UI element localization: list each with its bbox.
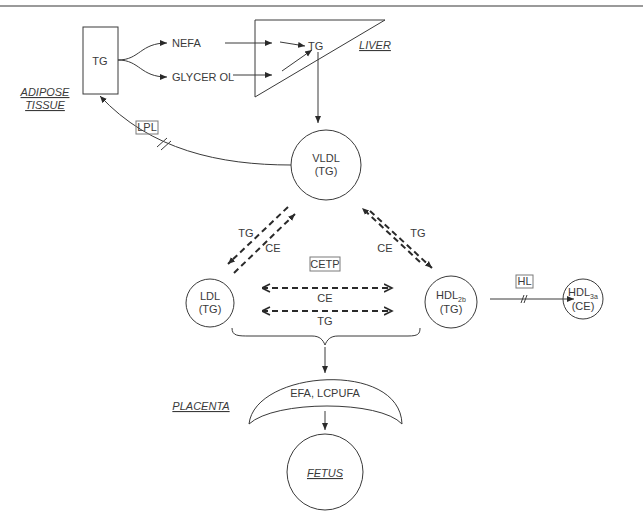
arrow-tg-to-nefa bbox=[118, 43, 167, 60]
fetus-circle: FETUS bbox=[287, 434, 363, 510]
vldl-content: (TG) bbox=[315, 165, 338, 177]
cetp-enzyme-box: CETP bbox=[310, 257, 340, 271]
glycerol-label: GLYCER OL bbox=[172, 71, 234, 83]
vldl-label: VLDL bbox=[312, 152, 340, 164]
ldl-label: LDL bbox=[200, 290, 220, 302]
left-tg-label: TG bbox=[238, 227, 253, 239]
lpl-label: LPL bbox=[137, 121, 157, 133]
hdl3a-label: HDL3a bbox=[568, 286, 598, 300]
ldl-content: (TG) bbox=[199, 303, 222, 315]
adipose-label-line1: ADIPOSE bbox=[20, 86, 71, 98]
adipose-label-line2: TISSUE bbox=[25, 99, 65, 111]
hl-enzyme-box: HL bbox=[516, 275, 533, 288]
hdl2b-label: HDL2b bbox=[436, 289, 466, 303]
lipid-metabolism-diagram: TG ADIPOSE TISSUE NEFA GLYCER OL LIVER T… bbox=[0, 0, 643, 520]
ldl-particle: LDL (TG) bbox=[186, 279, 234, 327]
hdl3a-content: (CE) bbox=[572, 300, 595, 312]
brace bbox=[232, 328, 420, 345]
left-ce-label: CE bbox=[265, 242, 280, 254]
hdl2b-content: (TG) bbox=[440, 303, 463, 315]
placenta-label: PLACENTA bbox=[172, 400, 229, 412]
liver-tg-label: TG bbox=[308, 40, 323, 52]
arrow-tg-to-glycerol bbox=[118, 60, 167, 77]
placenta-content: EFA, LCPUFA bbox=[290, 387, 360, 399]
lpl-enzyme-box: LPL bbox=[136, 121, 158, 134]
nefa-label: NEFA bbox=[172, 37, 201, 49]
mid-ce-label: CE bbox=[317, 292, 332, 304]
hl-label: HL bbox=[517, 275, 531, 287]
right-tg-label: TG bbox=[410, 227, 425, 239]
arrow-glycerol-to-liver-tg bbox=[282, 50, 312, 71]
arrow-vldl-to-ldl-tg bbox=[228, 207, 288, 264]
arrow-vldl-to-adipose bbox=[100, 96, 291, 165]
adipose-tg-box: TG bbox=[83, 27, 118, 94]
right-ce-label: CE bbox=[377, 242, 392, 254]
arrow-nefa-to-liver-tg bbox=[280, 42, 305, 46]
vldl-particle: VLDL (TG) bbox=[291, 130, 361, 200]
liver-label: LIVER bbox=[359, 39, 391, 51]
liver-triangle bbox=[255, 20, 385, 97]
arrow-vldl-to-hdl-tg bbox=[370, 211, 432, 268]
cetp-label: CETP bbox=[310, 258, 339, 270]
mid-tg-label: TG bbox=[317, 315, 332, 327]
fetus-label: FETUS bbox=[307, 467, 344, 479]
hdl2b-particle: HDL2b (TG) bbox=[425, 276, 477, 328]
adipose-tg-label: TG bbox=[92, 55, 107, 67]
